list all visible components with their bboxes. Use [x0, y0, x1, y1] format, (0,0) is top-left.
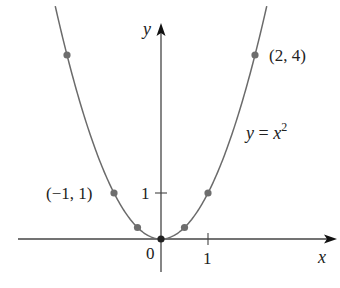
point-label-2-4: (2, 4): [269, 46, 306, 65]
eq-exponent: 2: [281, 120, 287, 134]
y-tick-label-1: 1: [141, 184, 150, 203]
parabola-chart: y x 0 1 1 (2, 4) (−1, 1) y = x2: [0, 0, 340, 288]
y-axis-label: y: [141, 19, 151, 39]
data-point: [251, 51, 258, 58]
data-point: [181, 224, 188, 231]
point-label-neg1-1: (−1, 1): [46, 184, 92, 203]
equation-label: y = x2: [244, 120, 287, 143]
eq-y: y: [244, 123, 254, 143]
eq-x: x: [272, 123, 281, 143]
x-tick-label-1: 1: [203, 249, 212, 268]
eq-equals: =: [254, 123, 273, 143]
data-point: [157, 235, 164, 242]
data-point: [110, 189, 117, 196]
data-point: [63, 51, 70, 58]
data-point: [134, 224, 141, 231]
x-axis-label: x: [317, 247, 326, 267]
data-point: [204, 189, 211, 196]
origin-label: 0: [146, 244, 155, 263]
